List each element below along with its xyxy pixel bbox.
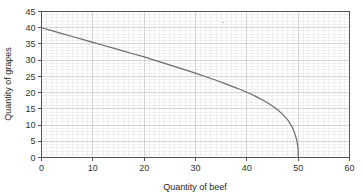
- x-tick-label: 0: [39, 163, 44, 173]
- y-tick-label: 25: [25, 72, 35, 82]
- y-axis-title: Quantity of grapes: [3, 47, 13, 121]
- x-tick-label: 30: [190, 163, 200, 173]
- ppf-chart: 0102030405060 051015202530354045 Quantit…: [0, 0, 363, 194]
- y-tick-label: 20: [25, 88, 35, 98]
- chart-container: 0102030405060 051015202530354045 Quantit…: [0, 0, 363, 194]
- y-tick-label: 40: [25, 23, 35, 33]
- y-tick-label: 30: [25, 55, 35, 65]
- x-tick-label: 10: [88, 163, 98, 173]
- y-tick-label: 10: [25, 120, 35, 130]
- x-tick-label: 60: [344, 163, 354, 173]
- speck-artifact: [223, 22, 224, 23]
- y-tick-label: 45: [25, 7, 35, 17]
- y-tick-label: 0: [30, 153, 35, 163]
- x-tick-label: 20: [139, 163, 149, 173]
- y-tick-label: 5: [30, 136, 35, 146]
- speck-dot: [223, 22, 224, 23]
- x-tick-label: 40: [242, 163, 252, 173]
- x-tick-label: 50: [293, 163, 303, 173]
- y-tick-label: 35: [25, 39, 35, 49]
- y-tick-label: 15: [25, 104, 35, 114]
- x-axis-title: Quantity of beef: [163, 182, 227, 192]
